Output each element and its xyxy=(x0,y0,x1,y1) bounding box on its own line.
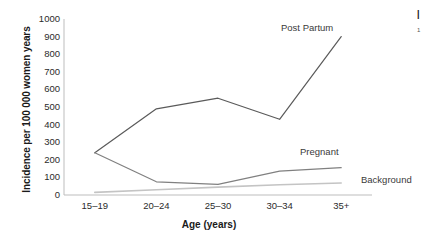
x-tick-label: 35+ xyxy=(309,200,373,211)
edge-text-fragment-top: | xyxy=(417,11,420,18)
x-tick-label: 20–24 xyxy=(124,200,188,211)
series-line-pregnant xyxy=(95,153,341,185)
edge-text-fragment-second: 1 xyxy=(417,27,420,34)
x-tick-label: 15–19 xyxy=(63,200,127,211)
x-tick-label: 30–34 xyxy=(248,200,312,211)
chart-figure: Incidence per 100 000 women years 010020… xyxy=(0,0,427,244)
series-lines xyxy=(95,37,341,193)
series-label-post-partum: Post Partum xyxy=(281,22,333,33)
x-tick-label: 25–30 xyxy=(186,200,250,211)
series-label-pregnant: Pregnant xyxy=(300,146,339,157)
series-line-post-partum xyxy=(95,37,341,153)
x-axis-title: Age (years) xyxy=(64,219,354,230)
series-label-background: Background xyxy=(361,174,412,185)
